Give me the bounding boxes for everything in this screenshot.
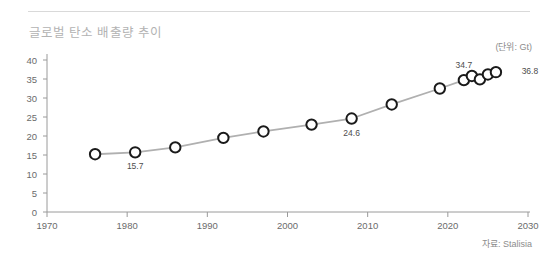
data-point-value-label: 36.8 (508, 66, 552, 76)
x-tick-label: 2020 (423, 220, 473, 231)
x-tick-label: 2000 (263, 220, 313, 231)
axes-group (47, 54, 530, 212)
y-tick-label: 5 (11, 188, 37, 199)
data-point-markers (90, 67, 501, 159)
x-tick-label: 1970 (22, 220, 72, 231)
y-tick-label: 30 (11, 93, 37, 104)
data-point-marker[interactable] (170, 142, 180, 152)
data-point-marker[interactable] (90, 149, 100, 159)
data-point-marker[interactable] (130, 147, 140, 157)
data-point-value-label: 15.7 (113, 161, 157, 171)
data-point-marker[interactable] (387, 99, 397, 109)
x-tick-label: 1990 (182, 220, 232, 231)
x-tick-label: 1980 (102, 220, 152, 231)
line-chart-plot (0, 0, 558, 257)
data-point-marker[interactable] (258, 126, 268, 136)
data-point-marker[interactable] (218, 133, 228, 143)
data-point-marker[interactable] (346, 113, 356, 123)
data-point-marker[interactable] (435, 83, 445, 93)
x-tick-label: 2030 (503, 220, 553, 231)
y-tick-label: 20 (11, 131, 37, 142)
data-point-marker[interactable] (306, 119, 316, 129)
y-tick-label: 40 (11, 55, 37, 66)
y-tick-label: 25 (11, 112, 37, 123)
y-tick-label: 10 (11, 169, 37, 180)
chart-card: 글로벌 탄소 배출량 추이 (단위: Gt) 자료: Stalisia 0510… (0, 0, 558, 257)
y-tick-label: 15 (11, 150, 37, 161)
data-point-marker[interactable] (491, 67, 501, 77)
x-tick-label: 2010 (343, 220, 393, 231)
data-point-value-label: 24.6 (330, 128, 374, 138)
y-tick-label: 35 (11, 74, 37, 85)
y-tick-label: 0 (11, 207, 37, 218)
data-point-value-label: 34.7 (442, 60, 486, 70)
